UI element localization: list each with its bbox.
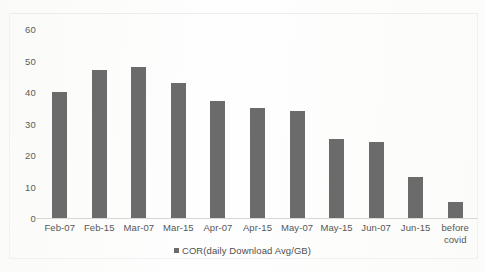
y-axis-tick-label: 50 [10,55,36,66]
bar [92,70,107,218]
bar [131,67,146,218]
y-axis-tick-label: 60 [10,24,36,35]
x-axis-baseline [36,218,477,219]
y-axis-tick-label: 20 [10,150,36,161]
bar [52,92,67,218]
plot-area [40,29,475,218]
y-axis-tick-label: 0 [10,213,36,224]
chart-screenshot: 0102030405060 Feb-07Feb-15Mar-07Mar-15Ap… [0,0,485,272]
bar [171,83,186,218]
bar [329,139,344,218]
y-axis-tick-label: 40 [10,87,36,98]
legend-label: COR(daily Download Avg/GB) [182,245,311,256]
bar [369,142,384,218]
bar [448,202,463,218]
chart-legend: COR(daily Download Avg/GB) [0,245,485,256]
bar [408,177,423,218]
bar [210,101,225,218]
bar [290,111,305,218]
x-axis-tick-label: before covid [432,222,478,245]
y-axis: 0102030405060 [8,0,36,272]
y-axis-tick-label: 10 [10,181,36,192]
bar [250,108,265,218]
y-axis-tick-label: 30 [10,118,36,129]
legend-square-marker [174,248,179,253]
